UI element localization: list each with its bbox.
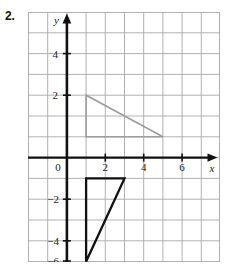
coordinate-grid-svg: 0 2 4 6 4 2 −2 −4 −6 x y	[28, 12, 220, 262]
x-tick-label-2: 2	[103, 161, 109, 173]
problem-number-label: 2.	[5, 9, 15, 23]
x-tick-label-6: 6	[179, 161, 185, 173]
origin-label: 0	[55, 161, 61, 173]
x-tick-label-4: 4	[141, 161, 147, 173]
y-tick-label-neg2: −2	[47, 193, 59, 205]
x-axis-name-label: x	[209, 162, 215, 174]
y-tick-label-neg4: −4	[47, 235, 59, 247]
y-axis-name-label: y	[53, 14, 59, 26]
y-tick-label-2: 2	[53, 89, 59, 101]
graph-area: 0 2 4 6 4 2 −2 −4 −6 x y	[28, 12, 220, 262]
y-tick-label-4: 4	[53, 48, 59, 60]
coordinate-plane-figure: 2.	[0, 0, 231, 279]
y-tick-label-neg6: −6	[47, 255, 59, 262]
